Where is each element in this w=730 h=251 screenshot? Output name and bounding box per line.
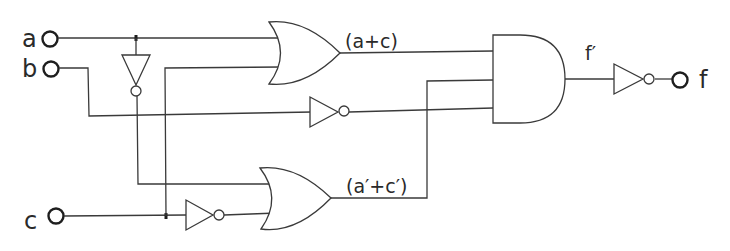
wire-c [64,215,186,216]
wire-c-to-or-top [165,67,281,216]
output-f-port [673,73,688,88]
or-gate-bottom [260,168,331,230]
wire-a-prime [137,96,277,184]
label-a-prime-plus-c-prime: (a′+c′) [346,175,407,197]
input-a-label: a [22,25,37,53]
input-c-port [49,209,64,224]
label-f-prime: f′ [585,42,596,64]
not-gate-a [122,55,150,96]
output-f-label: f [699,66,708,94]
input-a-port [43,32,58,47]
wire-b-prime [349,108,493,112]
logic-circuit-diagram: a b c [0,0,730,251]
not-gate-b [310,97,349,127]
label-a-plus-c: (a+c) [345,30,398,52]
input-b-port [44,62,59,77]
and-gate [493,35,565,123]
not-gate-c [186,200,224,230]
input-c-label: c [24,207,37,235]
or-gate-top [269,22,340,85]
input-b-label: b [22,55,37,83]
not-gate-output [614,64,654,94]
